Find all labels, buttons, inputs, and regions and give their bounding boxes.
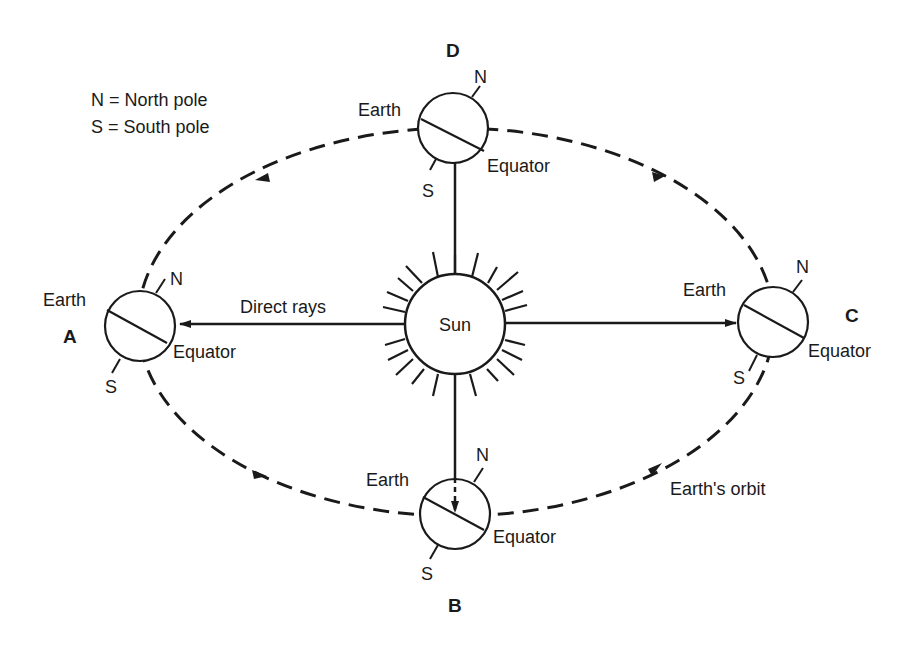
north-label-b: N	[476, 445, 489, 465]
equator-label-c: Equator	[808, 341, 871, 361]
position-label-a: A	[63, 326, 77, 347]
north-label-c: N	[796, 257, 809, 277]
earth-position-a: Earth N S Equator A	[43, 269, 236, 397]
north-label-d: N	[474, 67, 487, 87]
equator-label-a: Equator	[173, 342, 236, 362]
south-label-d: S	[422, 181, 434, 201]
earth-position-b: Earth N S Equator B	[366, 445, 556, 616]
earth-label-c: Earth	[683, 280, 726, 300]
earth-label-d: Earth	[358, 100, 401, 120]
orbit-arrow-upper-left	[255, 173, 270, 182]
position-label-d: D	[446, 40, 460, 61]
sun-label: Sun	[439, 315, 471, 335]
south-label-a: S	[105, 377, 117, 397]
earth-orbit-diagram: Sun N = North pole S = South pole Direct…	[0, 0, 917, 645]
direct-rays-label: Direct rays	[240, 297, 326, 317]
position-label-c: C	[845, 305, 859, 326]
north-label-a: N	[170, 269, 183, 289]
equator-label-b: Equator	[493, 527, 556, 547]
legend-north: N = North pole	[91, 90, 208, 110]
orbit-label: Earth's orbit	[670, 479, 765, 499]
earth-label-a: Earth	[43, 290, 86, 310]
legend-south: S = South pole	[91, 117, 210, 137]
earth-label-b: Earth	[366, 470, 409, 490]
position-label-b: B	[448, 595, 462, 616]
equator-label-d: Equator	[487, 156, 550, 176]
south-label-b: S	[421, 564, 433, 584]
south-label-c: S	[733, 368, 745, 388]
